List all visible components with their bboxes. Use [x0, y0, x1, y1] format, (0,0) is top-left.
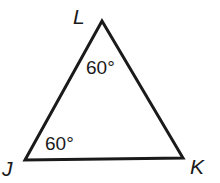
- angle-label-l: 60°: [86, 57, 115, 78]
- vertex-label-k: K: [190, 155, 205, 178]
- triangle-diagram: L J K 60° 60°: [0, 0, 220, 183]
- vertex-label-j: J: [1, 157, 13, 180]
- angle-label-j: 60°: [45, 133, 74, 154]
- vertex-label-l: L: [73, 5, 85, 28]
